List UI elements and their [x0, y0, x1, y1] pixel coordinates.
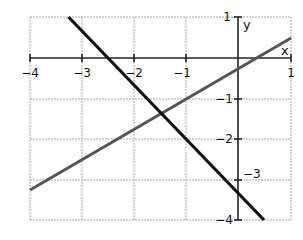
x-tick-label: −1	[173, 66, 191, 80]
y-tick-label: −4	[215, 213, 233, 227]
x-tick-label: 1	[287, 66, 295, 80]
y-tick-label: −1	[215, 92, 233, 106]
y-tick-label: 1	[223, 10, 231, 24]
y-tick-label: −3	[243, 167, 261, 181]
y-axis-label: y	[243, 17, 251, 32]
x-axis-label: x	[281, 43, 289, 58]
x-tick-label: −2	[125, 66, 143, 80]
black-line-series	[69, 17, 265, 220]
coordinate-plane: −4 −3 −2 −1 1 1 −1 −2 −3 −4 x y	[0, 0, 303, 240]
grid	[30, 17, 291, 220]
x-tick-label: −4	[21, 66, 39, 80]
y-tick-label: −2	[215, 132, 233, 146]
x-tick-label: −3	[73, 66, 91, 80]
